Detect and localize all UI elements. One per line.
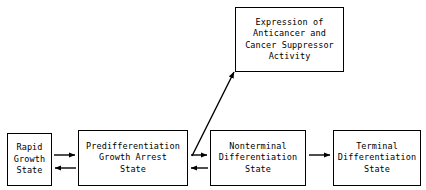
expression-box-line-2: Anticancer and (253, 28, 326, 40)
rapid-growth-state-box-line-2: Growth (14, 154, 45, 166)
rapid-growth-state-box-line-1: Rapid (16, 142, 42, 154)
terminal-box-line-3: State (364, 164, 390, 176)
predifferentiation-box-line-2: Growth Arrest (99, 152, 167, 164)
predifferentiation-box-line-1: Predifferentiation (86, 141, 180, 153)
terminal-box-line-2: Differentiation (338, 152, 416, 164)
terminal-differentiation-state-box: Terminal Differentiation State (333, 130, 421, 186)
diagram-canvas: Expression of Anticancer and Cancer Supp… (0, 0, 426, 190)
rapid-growth-state-box-line-3: State (16, 165, 42, 177)
nonterminal-box-line-2: Differentiation (219, 152, 297, 164)
predifferentiation-growth-arrest-state-box: Predifferentiation Growth Arrest State (78, 130, 188, 186)
expression-box-line-3: Cancer Suppressor (245, 40, 334, 52)
expression-box: Expression of Anticancer and Cancer Supp… (235, 7, 344, 72)
nonterminal-differentiation-state-box: Nonterminal Differentiation State (210, 130, 306, 186)
terminal-box-line-1: Terminal (356, 141, 398, 153)
predifferentiation-box-line-3: State (120, 164, 146, 176)
nonterminal-box-line-3: State (245, 164, 271, 176)
expression-box-line-4: Activity (269, 51, 311, 63)
rapid-growth-state-box: Rapid Growth State (7, 133, 52, 186)
expression-box-line-1: Expression of (256, 17, 324, 29)
nonterminal-box-line-1: Nonterminal (229, 141, 286, 153)
